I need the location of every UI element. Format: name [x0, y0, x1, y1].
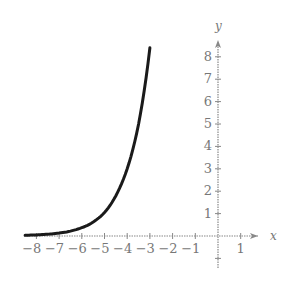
y-axis-label: y [214, 19, 222, 33]
x-tick-label: −2 [158, 241, 177, 256]
x-tick-label: 1 [237, 241, 245, 256]
x-tick-label: −7 [45, 241, 64, 256]
curve-line [25, 48, 150, 236]
y-tick-label: 5 [204, 116, 212, 131]
y-tick-label: 7 [204, 71, 212, 86]
y-tick-label: 2 [204, 183, 212, 198]
x-tick-label: −4 [113, 241, 132, 256]
x-tick-label: −3 [136, 241, 155, 256]
y-tick-label: 4 [204, 138, 212, 153]
y-tick-label: 6 [204, 94, 212, 109]
x-axis-label: x [270, 229, 277, 243]
x-tick-label: −6 [68, 241, 87, 256]
y-tick-label: 1 [204, 206, 212, 221]
y-tick-label: 3 [204, 161, 212, 176]
ticks [36, 57, 240, 259]
y-tick-label: 8 [204, 49, 212, 64]
x-axis-arrow-icon [250, 233, 258, 239]
exponential-graph: −8−7−6−5−4−3−2−1112345678 x y [0, 0, 294, 283]
x-tick-label: −1 [181, 241, 200, 256]
x-tick-label: −8 [22, 241, 41, 256]
x-tick-label: −5 [90, 241, 109, 256]
